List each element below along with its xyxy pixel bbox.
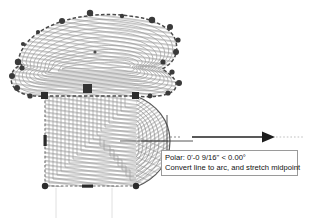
grip-hot-base-point[interactable] xyxy=(83,84,92,93)
cad-drawing-canvas[interactable] xyxy=(0,0,312,218)
grip-point[interactable] xyxy=(175,37,180,42)
grip-marker-small[interactable] xyxy=(93,50,96,53)
grip-point[interactable] xyxy=(9,73,15,79)
grip-point[interactable] xyxy=(36,30,40,34)
grip-point[interactable] xyxy=(165,90,170,95)
grip-point[interactable] xyxy=(176,80,182,86)
grip-point[interactable] xyxy=(173,49,179,55)
grip-point[interactable] xyxy=(21,42,25,46)
grip-point[interactable] xyxy=(160,59,165,64)
projection-lines xyxy=(56,188,112,218)
grip-point[interactable] xyxy=(59,18,65,24)
grip-point[interactable] xyxy=(42,183,48,189)
grip-point[interactable] xyxy=(19,65,24,70)
arrow-head-icon xyxy=(262,132,275,143)
grip-point[interactable] xyxy=(132,92,139,99)
grip-point[interactable] xyxy=(148,94,153,99)
grip-point[interactable] xyxy=(87,10,93,16)
grip-point[interactable] xyxy=(41,92,48,99)
tooltip-hint-text: Convert line to arc, and stretch midpoin… xyxy=(165,163,294,173)
grip-point[interactable] xyxy=(14,85,20,91)
grip-midpoint[interactable] xyxy=(82,185,93,188)
grip-point[interactable] xyxy=(15,59,21,65)
grip-point[interactable] xyxy=(133,183,139,189)
grip-point[interactable] xyxy=(120,14,124,18)
grip-point[interactable] xyxy=(167,24,173,30)
grip-point[interactable] xyxy=(27,93,32,98)
polar-tracking-tooltip: Polar: 0'-0 9/16" < 0.00° Convert line t… xyxy=(161,150,298,176)
tooltip-polar-readout: Polar: 0'-0 9/16" < 0.00° xyxy=(165,153,294,163)
grip-point[interactable] xyxy=(149,17,155,23)
grip-point[interactable] xyxy=(169,69,174,74)
grip-midpoint[interactable] xyxy=(44,135,47,146)
